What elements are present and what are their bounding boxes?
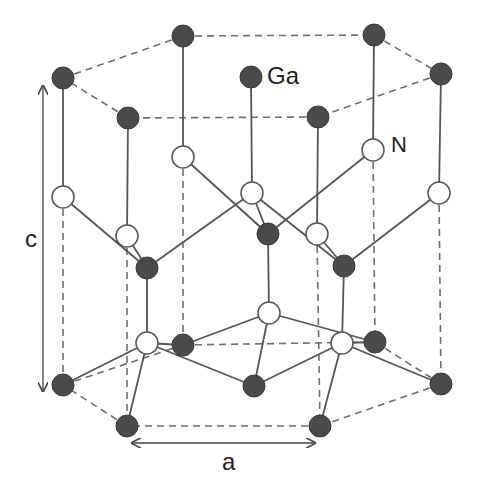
ga-atom (172, 25, 194, 47)
ga-atom (116, 415, 138, 437)
ga-atom (117, 107, 139, 129)
dashed-edge (375, 342, 441, 384)
ga-atom (136, 257, 158, 279)
c-label: c (25, 225, 37, 252)
bond (320, 343, 342, 426)
crystal-structure-diagram: Ga N c a (0, 0, 478, 491)
bond (439, 74, 441, 193)
dashed-edge (374, 35, 441, 74)
a-label: a (222, 448, 236, 475)
n-atom (116, 225, 138, 247)
dashed-edge (439, 193, 441, 384)
ga-atom (364, 331, 386, 353)
ga-atom (309, 415, 331, 437)
n-label: N (391, 132, 407, 157)
dashed-edge (128, 117, 318, 118)
dashed-edge (317, 234, 320, 426)
dashed-edge (320, 384, 441, 426)
bond (127, 118, 128, 236)
ga-atom (333, 255, 355, 277)
bond (254, 343, 342, 386)
n-atom (52, 186, 74, 208)
bond (342, 343, 441, 384)
bond (183, 313, 269, 345)
ga-atom (430, 373, 452, 395)
n-atom (331, 332, 353, 354)
ga-atom (430, 63, 452, 85)
ga-label: Ga (267, 62, 300, 89)
bond (251, 77, 252, 193)
n-atom (428, 182, 450, 204)
n-atom (258, 302, 280, 324)
ga-atom (257, 223, 279, 245)
atoms (52, 24, 452, 437)
dashed-edge (373, 150, 375, 342)
bond (373, 35, 374, 150)
bond (269, 313, 375, 342)
dashed-edge (183, 35, 374, 36)
ga-atom (240, 66, 262, 88)
bond (63, 343, 147, 385)
bond (344, 193, 439, 266)
ga-atom (52, 67, 74, 89)
bond (127, 343, 147, 426)
n-atom (241, 182, 263, 204)
ga-atom (172, 334, 194, 356)
bond (317, 117, 318, 234)
n-atom (362, 139, 384, 161)
bond (268, 150, 373, 234)
bond (147, 343, 254, 386)
dashed-edge (63, 36, 183, 78)
ga-atom (307, 106, 329, 128)
ga-atom (243, 375, 265, 397)
n-atom (136, 332, 158, 354)
n-atom (306, 223, 328, 245)
bond (268, 234, 269, 313)
n-atom (172, 146, 194, 168)
dashed-edge (318, 74, 441, 117)
ga-atom (52, 374, 74, 396)
ga-atom (363, 24, 385, 46)
